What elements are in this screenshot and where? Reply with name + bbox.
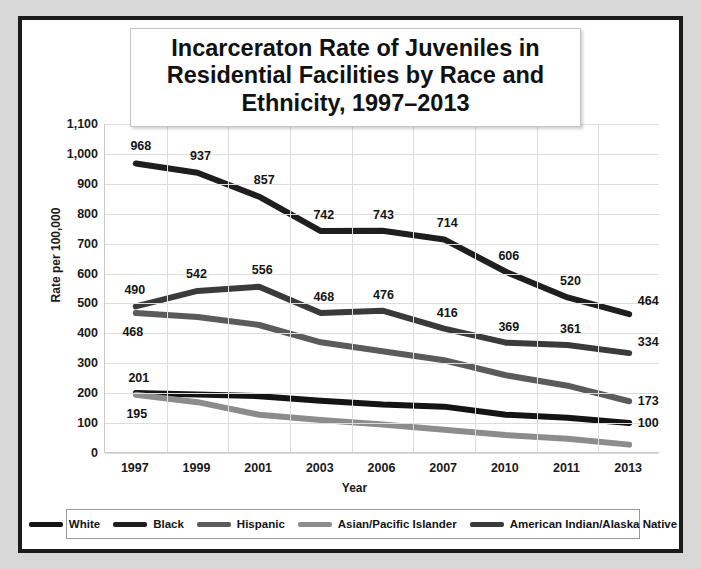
data-point-label: 100 [638,416,659,430]
legend-label: Black [153,518,184,530]
gridline-vertical [475,124,476,452]
gridline-horizontal [105,453,659,454]
data-point-label: 520 [560,274,581,288]
y-tick-label: 900 [38,177,98,191]
chart-title: Incarceraton Rate of Juveniles in Reside… [130,28,581,127]
legend-label: White [69,518,100,530]
gridline-horizontal [105,184,659,185]
legend-entry[interactable]: Hispanic [197,518,285,530]
legend-entry[interactable]: White [29,518,100,530]
chart-figure: Rate per 100,000 01002003004005006007008… [18,16,683,553]
legend-swatch-icon [470,522,504,527]
data-point-label: 369 [498,320,519,334]
gridline-vertical [352,124,353,452]
gridline-vertical [290,124,291,452]
data-point-label: 334 [638,335,659,349]
data-point-label: 743 [373,208,394,222]
y-tick-label: 100 [38,416,98,430]
data-point-label: 173 [638,394,659,408]
gridline-horizontal [105,154,659,155]
gridline-vertical [228,124,229,452]
x-tick-label: 2013 [593,461,663,475]
legend-swatch-icon [197,522,231,527]
chart-legend: WhiteBlackHispanicAsian/Pacific Islander… [66,509,640,539]
x-tick-label: 2003 [285,461,355,475]
y-tick-label: 700 [38,237,98,251]
data-point-label: 556 [252,263,273,277]
data-point-label: 201 [128,371,149,385]
data-point-label: 468 [313,290,334,304]
x-axis-label: Year [22,481,687,495]
series-line [136,313,629,401]
gridline-horizontal [105,363,659,364]
gridline-vertical [167,124,168,452]
gridline-vertical [598,124,599,452]
gridline-horizontal [105,303,659,304]
y-tick-label: 300 [38,356,98,370]
y-tick-label: 400 [38,326,98,340]
y-tick-label: 200 [38,386,98,400]
y-tick-label: 500 [38,296,98,310]
y-tick-label: 1,000 [38,147,98,161]
data-point-label: 195 [126,407,147,421]
legend-swatch-icon [298,522,332,527]
x-tick-label: 1997 [100,461,170,475]
legend-entry[interactable]: Black [113,518,184,530]
x-tick-label: 2006 [347,461,417,475]
y-tick-label: 1,100 [38,117,98,131]
legend-swatch-icon [29,522,63,527]
legend-entry[interactable]: Asian/Pacific Islander [298,518,457,530]
data-point-label: 857 [254,173,275,187]
y-axis-ticks: 01002003004005006007008009001,0001,100 [30,124,98,453]
x-tick-label: 2007 [408,461,478,475]
data-point-label: 468 [122,325,143,339]
data-point-label: 416 [437,306,458,320]
data-point-label: 361 [560,322,581,336]
gridline-horizontal [105,244,659,245]
y-tick-label: 800 [38,207,98,221]
y-tick-label: 0 [38,446,98,460]
y-tick-label: 600 [38,267,98,281]
data-point-label: 714 [437,216,458,230]
data-point-label: 464 [638,294,659,308]
data-point-label: 742 [313,208,334,222]
series-line [136,393,629,423]
data-point-label: 476 [373,288,394,302]
legend-swatch-icon [113,522,147,527]
data-point-label: 968 [130,139,151,153]
data-point-label: 937 [190,149,211,163]
x-tick-label: 2010 [470,461,540,475]
gridline-vertical [537,124,538,452]
x-tick-label: 2011 [532,461,602,475]
x-tick-label: 1999 [162,461,232,475]
legend-label: Asian/Pacific Islander [338,518,457,530]
legend-label: American Indian/Alaska Native [510,518,677,530]
data-point-label: 606 [498,249,519,263]
gridline-horizontal [105,393,659,394]
gridline-vertical [413,124,414,452]
data-point-label: 542 [186,267,207,281]
legend-entry[interactable]: American Indian/Alaska Native [470,518,677,530]
legend-label: Hispanic [237,518,285,530]
x-tick-label: 2001 [223,461,293,475]
gridline-horizontal [105,423,659,424]
data-point-label: 490 [124,283,145,297]
